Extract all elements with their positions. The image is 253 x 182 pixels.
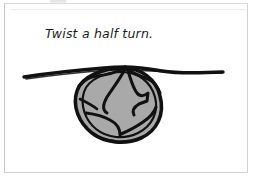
rope-half-twist-knot-diagram (4, 3, 248, 173)
illustration-page: Twist a half turn. (0, 0, 253, 182)
